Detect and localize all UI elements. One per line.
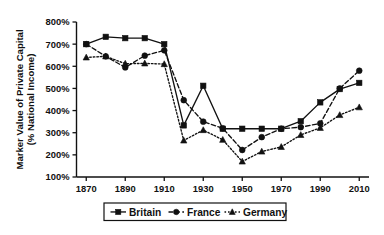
square-marker (162, 41, 167, 46)
square-marker (357, 80, 362, 85)
square-marker (240, 126, 245, 131)
y-tick-label: 500% (46, 83, 71, 94)
y-tick-label: 200% (46, 149, 71, 160)
circle-marker (181, 97, 187, 103)
square-marker (181, 123, 186, 128)
chart-container: Marker Value of Private Capital(% Nation… (0, 0, 384, 235)
square-marker (318, 100, 323, 105)
circle-marker (259, 134, 265, 140)
chart-legend: BritainFranceGermany (104, 203, 288, 221)
legend-label: Britain (129, 207, 161, 218)
circle-marker (161, 47, 167, 53)
square-marker (142, 35, 147, 40)
x-tick-label: 1990 (310, 183, 331, 194)
chart-background (0, 0, 384, 235)
y-tick-label: 300% (46, 127, 71, 138)
square-marker (259, 126, 264, 131)
x-tick-label: 1910 (154, 183, 175, 194)
y-tick-label: 100% (46, 171, 71, 182)
y-tick-label: 800% (46, 16, 71, 27)
y-tick-label: 400% (46, 105, 71, 116)
circle-marker (200, 119, 206, 125)
circle-marker (173, 209, 179, 215)
x-tick-label: 1890 (115, 183, 136, 194)
x-tick-label: 1970 (271, 183, 292, 194)
line-chart: Marker Value of Private Capital(% Nation… (0, 0, 384, 235)
legend-label: Germany (243, 207, 288, 218)
circle-marker (83, 41, 89, 47)
y-tick-label: 700% (46, 39, 71, 50)
circle-marker (356, 68, 362, 74)
square-marker (123, 35, 128, 40)
x-tick-label: 1930 (193, 183, 214, 194)
circle-marker (220, 125, 226, 131)
circle-marker (142, 53, 148, 59)
square-marker (103, 34, 108, 39)
y-tick-label: 600% (46, 61, 71, 72)
square-marker (298, 119, 303, 124)
square-marker (201, 83, 206, 88)
legend-label: France (187, 207, 221, 218)
circle-marker (298, 124, 304, 130)
circle-marker (239, 147, 245, 153)
x-tick-label: 1870 (76, 183, 97, 194)
circle-marker (337, 86, 343, 92)
square-marker (116, 209, 121, 214)
circle-marker (278, 126, 284, 132)
x-tick-label: 2010 (349, 183, 370, 194)
x-tick-label: 1950 (232, 183, 253, 194)
